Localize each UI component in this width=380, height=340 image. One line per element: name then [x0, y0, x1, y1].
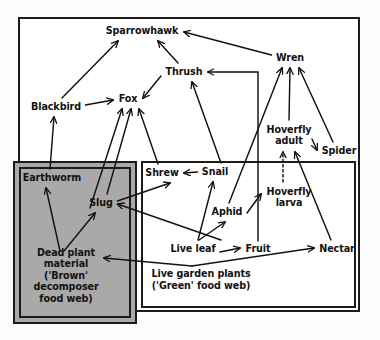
edge-dead_plant-to-slug: [64, 213, 95, 251]
edge-shrew-to-fox: [139, 109, 158, 164]
edge-hoverfly_adult-to-spider: [312, 139, 317, 150]
node-blackbird: Blackbird: [31, 101, 81, 112]
node-thrush: Thrush: [166, 66, 203, 77]
edge-thrush-to-sparrowhawk: [158, 41, 178, 63]
node-spider: Spider: [322, 145, 357, 156]
edge-snail-to-shrew: [184, 172, 198, 173]
node-shrew: Shrew: [145, 167, 178, 178]
edge-dead_plant-to-earthworm: [46, 188, 60, 251]
node-earthworm: Earthworm: [23, 172, 81, 183]
group-label-line1: Live garden plants: [151, 268, 250, 280]
node-slug: Slug: [89, 197, 113, 208]
edge-slug-to-fox: [107, 109, 131, 194]
node-sparrowhawk: Sparrowhawk: [106, 25, 179, 36]
edge-slug-to-shrew: [118, 183, 171, 201]
edge-live_leaf-to-fruit: [220, 248, 240, 252]
node-dead_plant: Dead plantmaterial('Brown'decomposerfood…: [33, 247, 98, 304]
node-hoverfly_adult: Hoverflyadult: [266, 124, 311, 147]
edge-hoverfly_adult-to-wren: [289, 68, 290, 120]
edge-snail-to-thrush: [192, 82, 221, 163]
node-nectar: Nectar: [319, 243, 354, 254]
node-wren: Wren: [276, 52, 304, 63]
edge-thrush-to-fox: [143, 76, 161, 98]
edge-blackbird-to-sparrowhawk: [62, 41, 118, 98]
node-live_leaf: Live leaf: [170, 243, 215, 254]
food-web-diagram: SparrowhawkWrenThrushBlackbirdFoxHoverfl…: [0, 0, 380, 340]
edge-blackbird-to-fox: [86, 100, 114, 105]
node-fruit: Fruit: [246, 243, 271, 254]
node-fox: Fox: [119, 93, 138, 104]
edge-wren-to-sparrowhawk: [184, 32, 272, 55]
node-aphid: Aphid: [212, 206, 243, 217]
group-label-line2: ('Green' food web): [151, 280, 250, 292]
node-snail: Snail: [202, 166, 228, 177]
edge-live_leaf-to-dead_plant: [104, 258, 192, 266]
group-label-green_web_label: Live garden plants('Green' food web): [151, 268, 250, 293]
edge-aphid-to-hoverfly_larva: [247, 194, 261, 213]
edge-earthworm-to-blackbird: [50, 117, 54, 169]
node-hoverfly_larva: Hoverflylarva: [266, 186, 311, 209]
